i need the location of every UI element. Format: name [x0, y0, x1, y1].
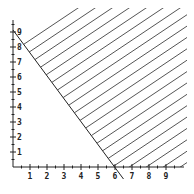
y-tick-label: 4 [17, 103, 22, 112]
y-tick-label: 2 [17, 133, 22, 142]
y-tick-label: 3 [17, 118, 22, 127]
x-tick-label: 3 [62, 172, 67, 181]
y-axis-ticks: 123456789 [17, 28, 22, 157]
boundary-line [13, 30, 124, 179]
y-tick-label: 5 [17, 88, 22, 97]
y-tick-label: 7 [17, 58, 22, 67]
x-tick-label: 8 [147, 172, 152, 181]
x-axis-ticks: 123456789 [28, 172, 169, 181]
y-tick-label: 8 [17, 43, 22, 52]
x-tick-label: 9 [164, 172, 169, 181]
x-tick-label: 7 [130, 172, 135, 181]
x-tick-label: 2 [45, 172, 50, 181]
inequality-graph: 123456789 123456789 [0, 0, 194, 194]
x-tick-label: 4 [79, 172, 84, 181]
x-tick-label: 1 [28, 172, 33, 181]
y-tick-label: 6 [17, 73, 22, 82]
x-tick-label: 6 [113, 172, 118, 181]
hatched-region [0, 0, 194, 194]
y-tick-label: 9 [17, 28, 22, 37]
x-tick-label: 5 [96, 172, 101, 181]
y-tick-label: 1 [17, 148, 22, 157]
